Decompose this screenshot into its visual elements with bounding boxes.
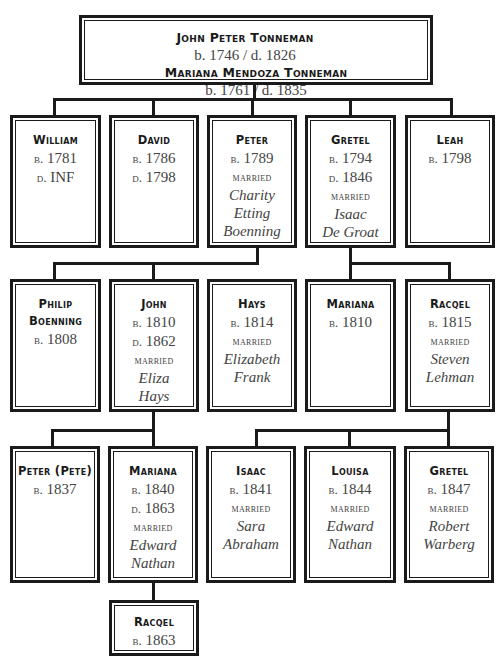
spouse-name-line: Abraham: [212, 535, 290, 553]
person-box-inner: Leah b. 1798: [410, 120, 490, 243]
married-label: married: [212, 499, 290, 517]
connector: [251, 98, 254, 116]
born-year: 1789: [244, 150, 274, 166]
born-prefix: b.: [230, 151, 239, 166]
connector: [349, 98, 352, 116]
birth-line: b. 1810: [115, 313, 193, 332]
born-prefix: b.: [33, 482, 42, 497]
spouse-name-line: Warberg: [410, 535, 488, 553]
connector: [255, 429, 450, 432]
born-year: 1786: [146, 150, 176, 166]
married-label: married: [213, 168, 291, 186]
spouse-name-line: Edward: [310, 517, 390, 535]
spouse-name-line: Frank: [213, 368, 291, 386]
person-name: Hays: [213, 296, 291, 313]
birth-line: b. 1794: [311, 149, 390, 168]
person-box-inner: Philip Boenning b. 1808: [15, 284, 96, 407]
died-year: 1863: [145, 500, 175, 516]
person-box-inner: Gretel b. 1794 d. 1846 married Isaac De …: [310, 120, 391, 243]
born-year: 1844: [342, 481, 372, 497]
born-year: 1814: [244, 314, 274, 330]
born-year: 1810: [342, 314, 372, 330]
person-box-william: William b. 1781 d. INF: [10, 115, 101, 248]
person-box-inner: Racqel b. 1815 married Steven Lehman: [410, 284, 490, 407]
person-box-leah: Leah b. 1798: [405, 115, 495, 248]
spouse-name-line: Steven: [411, 350, 489, 368]
person-name: Mariana: [311, 296, 390, 313]
person-box-inner: Peter (Pete) b. 1837: [15, 451, 95, 578]
born-prefix: b.: [428, 315, 437, 330]
person-box-inner: William b. 1781 d. INF: [15, 120, 96, 243]
died-year: INF: [50, 169, 74, 185]
born-prefix: b.: [329, 315, 338, 330]
died-prefix: d.: [37, 170, 47, 185]
birth-line: b. 1837: [16, 480, 94, 499]
person-box-inner: Peter b. 1789 married Charity Etting Boe…: [212, 120, 292, 243]
born-year: 1794: [342, 150, 372, 166]
person-name: Racqel: [411, 296, 489, 313]
spouse-name-line: Isaac: [311, 205, 390, 223]
person-box-philip-boenning: Philip Boenning b. 1808: [10, 279, 101, 412]
person-box-inner: Gretel b. 1847 married Robert Warberg: [409, 451, 489, 578]
born-prefix: b.: [132, 633, 141, 648]
born-prefix: b.: [132, 151, 141, 166]
person-box-peter: Peter b. 1789 married Charity Etting Boe…: [207, 115, 297, 248]
born-prefix: b.: [428, 151, 437, 166]
connector: [349, 262, 450, 265]
person-box-racqel: Racqel b. 1815 married Steven Lehman: [405, 279, 495, 412]
died-prefix: d.: [131, 501, 141, 516]
connector: [448, 262, 451, 280]
born-year: 1798: [442, 150, 472, 166]
born-prefix: b.: [34, 151, 43, 166]
died-year: 1862: [146, 333, 176, 349]
born-prefix: b.: [229, 482, 238, 497]
died-prefix: d.: [132, 334, 142, 349]
died-prefix: d.: [329, 170, 339, 185]
person-box-isaac: Isaac b. 1841 married Sara Abraham: [206, 446, 296, 583]
spouse-name-line: Edward: [114, 536, 192, 554]
born-prefix: b.: [230, 315, 239, 330]
spouse-name-line: Hays: [115, 387, 193, 405]
married-label: married: [213, 332, 291, 350]
person-name: Racqel: [115, 614, 193, 631]
connector: [53, 262, 259, 265]
person-name: John Peter Tonneman: [176, 29, 313, 46]
birth-line: b. 1844: [310, 480, 390, 499]
person-box-inner: John b. 1810 d. 1862 married Eliza Hays: [114, 284, 194, 407]
person-name: Peter (Pete): [16, 463, 94, 480]
person-box-inner: Louisa b. 1844 married Edward Nathan: [309, 451, 391, 578]
born-year: 1837: [47, 481, 77, 497]
died-year: 1846: [342, 169, 372, 185]
birth-line: b. 1840: [114, 480, 192, 499]
born-year: 1815: [442, 314, 472, 330]
death-line: d. 1863: [114, 499, 192, 518]
connector: [53, 98, 56, 116]
married-label: married: [114, 518, 192, 536]
person-name: Leah: [411, 132, 489, 149]
born-prefix: b.: [34, 332, 43, 347]
spouse-name-line: Robert: [410, 517, 488, 535]
person-name: Philip: [16, 296, 95, 313]
born-prefix: b.: [329, 151, 338, 166]
birth-line: b. 1814: [213, 313, 291, 332]
birth-line: b. 1841: [212, 480, 290, 499]
person-box-inner: Hays b. 1814 married Elizabeth Frank: [212, 284, 292, 407]
spouse-name-line: Elizabeth: [213, 350, 291, 368]
birth-line: b. 1781: [16, 149, 95, 168]
born-prefix: b.: [427, 482, 436, 497]
person-box-mariana-gen3: Mariana b. 1840 d. 1863 married Edward N…: [108, 446, 198, 583]
birth-line: b. 1815: [411, 313, 489, 332]
connector: [450, 98, 453, 116]
connector: [51, 429, 155, 432]
person-name: Louisa: [310, 463, 390, 480]
birth-line: b. 1863: [115, 631, 193, 650]
born-year: 1781: [47, 150, 77, 166]
person-box-peter-pete: Peter (Pete) b. 1837: [10, 446, 100, 583]
person-name: William: [16, 132, 95, 149]
spouse-name-line: Nathan: [310, 535, 390, 553]
person-box-gretel: Gretel b. 1794 d. 1846 married Isaac De …: [305, 115, 396, 248]
married-label: married: [310, 499, 390, 517]
person-box-inner: Mariana b. 1840 d. 1863 married Edward N…: [113, 451, 193, 578]
person-box-inner: Mariana b. 1810: [310, 284, 391, 407]
married-label: married: [311, 187, 390, 205]
